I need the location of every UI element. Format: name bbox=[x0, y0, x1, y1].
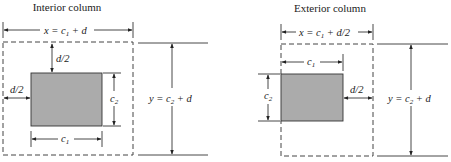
c1-label: c1 bbox=[61, 133, 69, 146]
x-dim-label: x = c1 + d bbox=[43, 25, 87, 38]
exterior-title: Exterior column bbox=[294, 2, 366, 14]
d-half-top-label: d/2 bbox=[56, 53, 70, 64]
d-half-right-label: d/2 bbox=[350, 84, 364, 95]
interior-column-diagram: Interior column x = c1 + d y = c2 + d d/… bbox=[3, 1, 208, 155]
d-half-left-label: d/2 bbox=[10, 84, 24, 95]
interior-title: Interior column bbox=[33, 1, 102, 13]
x-dim-label: x = c1 + d/2 bbox=[298, 27, 351, 40]
exterior-column-diagram: Exterior column x = c1 + d/2 y = c2 + d … bbox=[258, 2, 448, 156]
exterior-column-section bbox=[281, 74, 343, 121]
y-dim-label: y = c2 + d bbox=[387, 93, 431, 106]
c2-label: c2 bbox=[110, 93, 119, 106]
c1-label: c1 bbox=[307, 56, 315, 69]
c2-label: c2 bbox=[264, 90, 273, 103]
y-dim-label: y = c2 + d bbox=[148, 93, 192, 106]
interior-column-section bbox=[31, 73, 102, 126]
column-critical-section-diagram: Interior column x = c1 + d y = c2 + d d/… bbox=[0, 0, 451, 162]
